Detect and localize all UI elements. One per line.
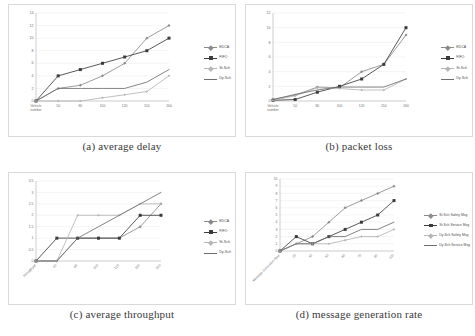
panel-b-packet-loss: 024681012Vehiclenumber5080100120150200 E… xyxy=(245,4,473,164)
svg-text:50: 50 xyxy=(324,253,329,258)
svg-text:6: 6 xyxy=(276,206,278,210)
svg-text:10: 10 xyxy=(274,177,278,181)
chart-box-b: 024681012Vehiclenumber5080100120150200 E… xyxy=(245,4,473,137)
svg-text:4: 4 xyxy=(32,74,34,78)
svg-text:50: 50 xyxy=(293,104,297,108)
svg-text:100: 100 xyxy=(100,104,106,108)
legend-key-edca xyxy=(204,219,217,224)
legend-item-dy-sch-service: Dy-Sch Service Msg xyxy=(424,243,470,248)
legend-key-fifo xyxy=(441,56,454,61)
svg-text:1: 1 xyxy=(276,242,278,246)
legend-a: EDCA FIFO St-Sch xyxy=(204,45,231,87)
svg-text:6: 6 xyxy=(269,55,271,59)
chart-plot-a: 02468101214Vehiclenumber5080100120150200 xyxy=(9,5,237,136)
svg-text:100: 100 xyxy=(92,263,99,270)
svg-text:12: 12 xyxy=(267,11,271,15)
svg-text:80: 80 xyxy=(315,104,319,108)
panel-a-average-delay: 02468101214Vehiclenumber5080100120150200… xyxy=(8,4,236,164)
legend-label-st-sch-service: St-Sch Service Msg xyxy=(439,224,469,228)
caption-b: (b) packet loss xyxy=(245,140,473,152)
legend-label-fifo: FIFO xyxy=(219,230,227,234)
svg-text:150: 150 xyxy=(144,104,150,108)
legend-key-dy-sch-service xyxy=(424,243,437,248)
legend-label-edca: EDCA xyxy=(219,220,229,224)
legend-item-fifo: FIFO xyxy=(204,230,231,235)
svg-text:3: 3 xyxy=(32,191,34,195)
legend-item-st-sch-safety: St-Sch Safety Msg xyxy=(424,213,470,218)
svg-text:4: 4 xyxy=(276,220,278,224)
legend-key-st-sch xyxy=(204,66,217,71)
legend-key-st-sch xyxy=(441,66,454,71)
svg-text:0: 0 xyxy=(32,99,34,103)
caption-a: (a) average delay xyxy=(8,140,236,152)
svg-text:50: 50 xyxy=(56,104,60,108)
legend-key-fifo xyxy=(204,230,217,235)
legend-item-st-sch: St-Sch xyxy=(204,240,231,245)
legend-key-st-sch-safety xyxy=(424,213,437,218)
legend-item-dy-sch: Dy-Sch xyxy=(204,251,231,256)
legend-label-st-sch: St-Sch xyxy=(219,241,230,245)
legend-key-st-sch-service xyxy=(424,223,437,228)
legend-label-st-sch: St-Sch xyxy=(219,67,230,71)
svg-text:150: 150 xyxy=(134,263,141,270)
legend-b: EDCA FIFO St-Sch xyxy=(441,45,468,87)
svg-text:200: 200 xyxy=(166,104,172,108)
svg-text:150: 150 xyxy=(381,104,387,108)
svg-text:200: 200 xyxy=(403,104,409,108)
legend-label-fifo: FIFO xyxy=(219,56,227,60)
legend-key-edca xyxy=(204,45,217,50)
legend-label-dy-sch-safety: Dy-Sch Safety Msg xyxy=(439,234,468,238)
legend-item-st-sch: St-Sch xyxy=(204,66,231,71)
svg-text:8: 8 xyxy=(32,49,34,53)
figure-four-panel-charts: 02468101214Vehiclenumber5080100120150200… xyxy=(0,0,475,336)
svg-text:120: 120 xyxy=(359,104,365,108)
svg-text:6: 6 xyxy=(32,61,34,65)
svg-text:1.5: 1.5 xyxy=(29,225,34,229)
legend-item-dy-sch: Dy-Sch xyxy=(204,77,231,82)
panel-d-message-generation-rate: 012345678910Message Generation Rate20405… xyxy=(245,172,473,332)
svg-text:20: 20 xyxy=(292,253,297,258)
svg-text:0: 0 xyxy=(269,99,271,103)
legend-key-fifo xyxy=(204,56,217,61)
svg-text:3: 3 xyxy=(276,228,278,232)
svg-text:10: 10 xyxy=(30,36,34,40)
svg-text:number: number xyxy=(30,108,42,112)
svg-text:7: 7 xyxy=(276,199,278,203)
legend-item-st-sch-service: St-Sch Service Msg xyxy=(424,223,470,228)
legend-key-st-sch xyxy=(204,240,217,245)
legend-label-edca: EDCA xyxy=(219,46,229,50)
legend-key-dy-sch xyxy=(204,77,217,82)
chart-plot-c: 00.511.522.533.5throughput50801001201502… xyxy=(9,173,237,304)
svg-text:80: 80 xyxy=(373,253,378,258)
svg-text:2: 2 xyxy=(32,213,34,217)
svg-text:Vehicle: Vehicle xyxy=(268,104,279,108)
svg-text:120: 120 xyxy=(122,104,128,108)
svg-text:Message Generation Rate: Message Generation Rate xyxy=(252,253,281,282)
svg-text:12: 12 xyxy=(30,24,34,28)
legend-item-fifo: FIFO xyxy=(204,56,231,61)
legend-item-fifo: FIFO xyxy=(441,56,468,61)
svg-text:8: 8 xyxy=(276,192,278,196)
chart-plot-b: 024681012Vehiclenumber5080100120150200 xyxy=(246,5,474,136)
legend-item-st-sch: St-Sch xyxy=(441,66,468,71)
svg-text:120: 120 xyxy=(113,263,120,270)
svg-text:60: 60 xyxy=(341,253,346,258)
svg-text:80: 80 xyxy=(73,263,79,269)
chart-box-d: 012345678910Message Generation Rate20405… xyxy=(245,172,473,305)
legend-item-dy-sch-safety: Dy-Sch Safety Msg xyxy=(424,233,470,238)
svg-text:3.5: 3.5 xyxy=(29,179,34,183)
svg-text:1: 1 xyxy=(32,236,34,240)
chart-box-a: 02468101214Vehiclenumber5080100120150200… xyxy=(8,4,236,137)
svg-text:0: 0 xyxy=(32,259,34,263)
svg-text:9: 9 xyxy=(276,184,278,188)
legend-key-edca xyxy=(441,45,454,50)
svg-text:number: number xyxy=(267,108,279,112)
legend-c: EDCA FIFO St-Sch xyxy=(204,219,231,261)
legend-item-edca: EDCA xyxy=(204,219,231,224)
svg-text:0.5: 0.5 xyxy=(29,248,34,252)
legend-key-dy-sch xyxy=(441,77,454,82)
chart-box-c: 00.511.522.533.5throughput50801001201502… xyxy=(8,172,236,305)
legend-label-dy-sch: Dy-Sch xyxy=(456,77,468,81)
legend-item-edca: EDCA xyxy=(441,45,468,50)
legend-label-dy-sch: Dy-Sch xyxy=(219,77,231,81)
